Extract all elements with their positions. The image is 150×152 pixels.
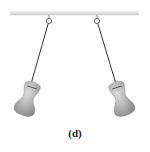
right-string — [98, 24, 116, 85]
left-string — [31, 24, 48, 85]
left-pendulum — [12, 15, 51, 119]
left-bob-icon — [12, 79, 43, 119]
support-bar — [10, 11, 139, 15]
left-pivot-ring-icon — [46, 18, 51, 23]
right-bob-icon — [105, 79, 136, 119]
figure-caption: (d) — [0, 127, 150, 139]
right-pendulum — [94, 15, 136, 119]
right-pivot-ring-icon — [94, 18, 99, 23]
